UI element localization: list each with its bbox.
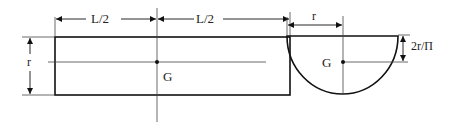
dimension-label-right-half: L/2 (196, 11, 214, 26)
centroid-dot (155, 60, 159, 64)
centroid-label: G (163, 69, 172, 84)
dimension-label-left-half: L/2 (91, 11, 109, 26)
rectangle-view: G L/2 L/2 r (22, 8, 290, 122)
offset-dimension-label: 2r/Π (411, 39, 433, 53)
semicircle-centroid-label: G (322, 55, 331, 70)
semicircle-view: G r 2r/Π (287, 9, 433, 94)
centroid-diagram: G L/2 L/2 r G r 2r/Π (0, 0, 454, 128)
semicircle-centroid-dot (341, 60, 345, 64)
semicircle-radius-label: r (312, 9, 316, 23)
rectangle-body (55, 37, 290, 95)
semicircle-body (287, 36, 398, 94)
dimension-label-height: r (27, 55, 31, 69)
